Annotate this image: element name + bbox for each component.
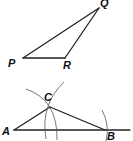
label-q: Q (100, 0, 109, 9)
label-a: A (1, 125, 10, 137)
label-c: C (44, 91, 53, 103)
label-r: R (63, 59, 71, 71)
segment-rq (65, 8, 99, 58)
triangle-pqr: P R Q (8, 0, 109, 71)
segment-cb (50, 107, 105, 130)
segment-pq (23, 8, 99, 58)
label-p: P (8, 57, 16, 69)
construction-abc: A B C (1, 82, 130, 141)
label-b: B (107, 130, 115, 141)
geometry-figure: P R Q A B C (0, 0, 133, 141)
